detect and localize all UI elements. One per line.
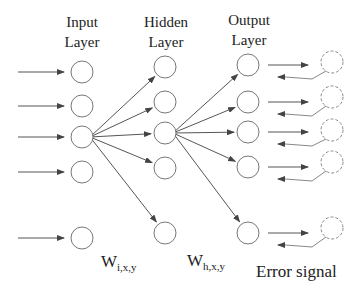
- target-node: [321, 51, 343, 73]
- input-arrows: [18, 72, 64, 238]
- hidden-layer-title: Hidden Layer: [133, 12, 199, 52]
- hidden-node: [154, 157, 176, 179]
- input-node: [71, 61, 93, 83]
- edge-input-to-hidden: [90, 137, 156, 222]
- error-signal-path: [285, 171, 326, 181]
- edge-input-to-hidden: [90, 77, 155, 137]
- target-node: [321, 86, 343, 108]
- hidden-node: [154, 56, 176, 78]
- output-node: [237, 121, 259, 143]
- edge-hidden-to-output: [173, 107, 235, 133]
- error-signal-path: [285, 139, 326, 146]
- output-node: [237, 222, 259, 244]
- output-layer-title-line2: Layer: [216, 30, 282, 50]
- hidden-layer-title-line1: Hidden: [133, 12, 199, 32]
- input-layer-title-line2: Layer: [52, 32, 112, 52]
- output-layer-title: Output Layer: [216, 10, 282, 50]
- input-node: [71, 227, 93, 249]
- edge-input-to-hidden: [90, 108, 152, 137]
- error-signal-path: [285, 237, 326, 247]
- output-layer-title-line1: Output: [216, 10, 282, 30]
- input-node: [71, 161, 93, 183]
- edge-hidden-to-output: [173, 133, 235, 161]
- weight-label-hidden-output: Wh,x,y: [187, 251, 225, 272]
- hidden-layer-title-line2: Layer: [133, 32, 199, 52]
- edge-hidden-to-output: [173, 74, 238, 133]
- output-node: [237, 91, 259, 113]
- target-node: [321, 217, 343, 239]
- input-layer-title-line1: Input: [52, 12, 112, 32]
- input-node: [71, 126, 93, 148]
- error-signal-path: [285, 106, 326, 116]
- target-node: [321, 119, 343, 141]
- hidden-node: [154, 122, 176, 144]
- error-signal-path: [285, 71, 326, 79]
- hidden-node: [154, 222, 176, 244]
- input-node: [71, 95, 93, 117]
- weight-label-input-hidden: Wi,x,y: [101, 252, 137, 273]
- nodes: [71, 51, 343, 249]
- input-layer-title: Input Layer: [52, 12, 112, 52]
- error-signals: [268, 65, 326, 247]
- edge-hidden-to-output: [173, 132, 234, 133]
- edge-input-to-hidden: [90, 137, 152, 163]
- output-node: [237, 54, 259, 76]
- edge-hidden-to-output: [173, 133, 240, 222]
- edge-input-to-hidden: [90, 134, 151, 137]
- error-signal-label: Error signal: [256, 262, 362, 282]
- output-node: [237, 156, 259, 178]
- hidden-node: [154, 91, 176, 113]
- target-node: [321, 151, 343, 173]
